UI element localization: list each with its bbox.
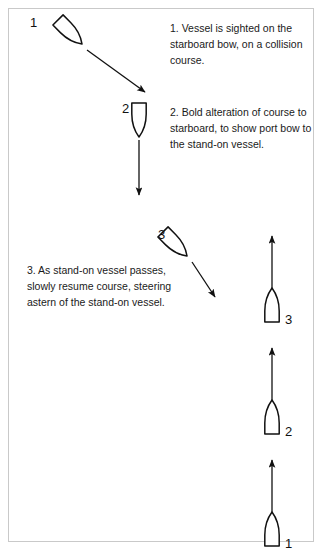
caption-step-3: 3. As stand-on vessel passes, slowly res… bbox=[27, 262, 177, 310]
arrow-give-way-1 bbox=[87, 50, 145, 92]
give-way-vessel-1 bbox=[53, 15, 87, 49]
diagram-page: 1. Vessel is sighted on the starboard bo… bbox=[0, 0, 323, 559]
caption-step-2: 2. Bold alteration of course to starboar… bbox=[170, 104, 315, 152]
caption-step-1: 1. Vessel is sighted on the starboard bo… bbox=[170, 20, 315, 68]
give-way-vessel-label-3: 3 bbox=[158, 228, 165, 241]
give-way-vessel-label-2: 2 bbox=[122, 102, 129, 115]
give-way-vessel-2 bbox=[132, 103, 146, 137]
stand-on-vessel-3 bbox=[265, 288, 279, 322]
arrow-give-way-3 bbox=[192, 262, 215, 297]
stand-on-vessel-1 bbox=[265, 512, 279, 546]
give-way-vessel-label-1: 1 bbox=[30, 16, 37, 29]
stand-on-vessel-label-1: 1 bbox=[285, 537, 292, 550]
stand-on-vessel-2 bbox=[265, 400, 279, 434]
stand-on-vessel-label-3: 3 bbox=[285, 313, 292, 326]
stand-on-vessel-label-2: 2 bbox=[285, 425, 292, 438]
